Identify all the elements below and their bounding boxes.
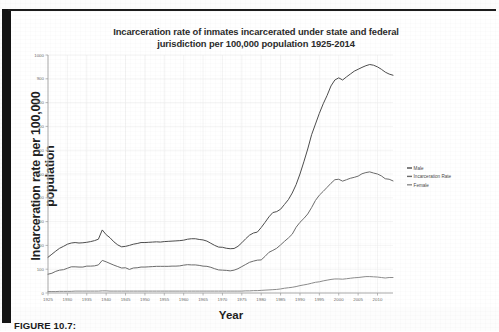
svg-text:1970: 1970 — [218, 297, 228, 302]
svg-text:300: 300 — [37, 219, 45, 224]
svg-text:Male: Male — [414, 166, 424, 171]
scanned-page: Incarceration rate of inmates incarcerat… — [0, 0, 499, 332]
x-axis-ticks: 1925193019351940194519501955196019651970… — [43, 293, 383, 302]
svg-text:1925: 1925 — [43, 297, 53, 302]
svg-text:1995: 1995 — [314, 297, 324, 302]
svg-text:2000: 2000 — [334, 297, 344, 302]
svg-text:600: 600 — [37, 148, 45, 153]
svg-text:1955: 1955 — [159, 297, 169, 302]
svg-text:1930: 1930 — [62, 297, 72, 302]
svg-text:Incarceration Rate: Incarceration Rate — [414, 174, 452, 179]
svg-text:Female: Female — [414, 183, 430, 188]
svg-text:200: 200 — [37, 243, 45, 248]
x-axis-label: Year — [161, 309, 301, 321]
svg-text:1990: 1990 — [295, 297, 305, 302]
svg-text:1985: 1985 — [276, 297, 286, 302]
svg-text:400: 400 — [37, 195, 45, 200]
grid-lines — [48, 55, 393, 293]
svg-text:1950: 1950 — [140, 297, 150, 302]
svg-text:2010: 2010 — [373, 297, 383, 302]
svg-text:1975: 1975 — [237, 297, 247, 302]
svg-text:1945: 1945 — [121, 297, 131, 302]
chart-plot-area: 01002003004005006007008009001000 1925193… — [11, 12, 499, 308]
svg-text:1980: 1980 — [256, 297, 266, 302]
y-axis-ticks: 01002003004005006007008009001000 — [34, 53, 48, 296]
svg-text:2005: 2005 — [353, 297, 363, 302]
svg-text:100: 100 — [37, 267, 45, 272]
page-left-margin-band — [2, 9, 11, 323]
svg-text:1940: 1940 — [101, 297, 111, 302]
svg-text:1000: 1000 — [34, 53, 44, 58]
svg-text:500: 500 — [37, 172, 45, 177]
svg-text:700: 700 — [37, 124, 45, 129]
data-series — [48, 65, 393, 292]
svg-text:900: 900 — [37, 76, 45, 81]
svg-text:1960: 1960 — [179, 297, 189, 302]
page-top-rule — [8, 9, 496, 11]
svg-text:1935: 1935 — [82, 297, 92, 302]
svg-text:800: 800 — [37, 100, 45, 105]
svg-text:1965: 1965 — [198, 297, 208, 302]
svg-text:0: 0 — [42, 291, 45, 296]
chart-figure: Incarceration rate of inmates incarcerat… — [11, 12, 499, 308]
figure-caption: FIGURE 10.7: — [14, 320, 76, 331]
chart-legend: MaleIncarceration RateFemale — [407, 166, 452, 188]
